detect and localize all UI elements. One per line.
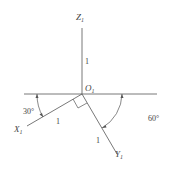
- x-length-label: 1: [56, 117, 60, 126]
- angle-arc-60: [102, 94, 122, 128]
- angle-30-label: 30°: [23, 107, 34, 116]
- origin-label: O1: [85, 83, 95, 94]
- x-axis: [27, 94, 82, 126]
- y-axis: [82, 94, 117, 154]
- right-angle-marker: [73, 99, 87, 108]
- y-axis-label: Y1: [115, 149, 123, 160]
- angle-60-label: 60°: [148, 114, 159, 123]
- arrowhead: [40, 113, 44, 117]
- arrowhead: [121, 94, 124, 98]
- z-length-label: 1: [85, 57, 89, 66]
- arrowhead: [36, 94, 39, 98]
- axes-diagram: Z1 1 O1 30° 1 X1 60° 1 Y1: [0, 0, 172, 172]
- z-axis-label: Z1: [76, 12, 84, 23]
- y-length-label: 1: [96, 136, 100, 145]
- x-axis-label: X1: [13, 124, 23, 135]
